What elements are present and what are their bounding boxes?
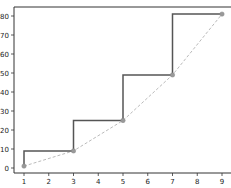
x-tick-label: 8 — [195, 178, 199, 186]
y-tick-label: 50 — [0, 70, 9, 78]
x-tick-label: 6 — [146, 178, 151, 186]
y-tick-label: 80 — [0, 13, 9, 21]
step-chart: 12345678901020304050607080 — [0, 0, 231, 188]
x-tick-label: 3 — [71, 178, 75, 186]
data-point — [121, 118, 125, 122]
axes: 12345678901020304050607080 — [0, 7, 231, 186]
y-tick-label: 40 — [0, 89, 9, 97]
x-tick-label: 4 — [96, 178, 101, 186]
x-tick-label: 7 — [170, 178, 174, 186]
y-tick-label: 0 — [5, 165, 9, 173]
y-tick-label: 70 — [0, 32, 9, 40]
data-point — [170, 73, 174, 77]
y-tick-label: 10 — [0, 146, 9, 154]
y-tick-label: 30 — [0, 108, 9, 116]
plot-area — [22, 12, 224, 168]
x-tick-label: 2 — [47, 178, 51, 186]
x-tick-label: 5 — [121, 178, 125, 186]
data-point — [71, 149, 75, 153]
data-point — [220, 12, 224, 16]
x-tick-label: 1 — [22, 178, 26, 186]
y-tick-label: 60 — [0, 51, 9, 59]
data-point — [22, 164, 26, 168]
y-tick-label: 20 — [0, 127, 9, 135]
x-tick-label: 9 — [220, 178, 224, 186]
step-line — [24, 14, 222, 166]
